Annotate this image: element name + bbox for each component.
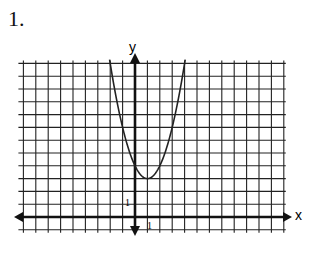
x-axis-label: x [295, 207, 302, 223]
x-axis-left-arrow-icon [14, 212, 23, 222]
x-unit-label: 1 [147, 220, 152, 231]
y-unit-label: 1 [125, 197, 130, 208]
coordinate-graph: x y 1 1 [0, 0, 322, 257]
axes [14, 53, 292, 236]
y-axis-down-arrow-icon [130, 226, 140, 236]
grid-lines [18, 60, 285, 232]
x-axis-right-arrow-icon [283, 212, 292, 222]
y-axis-label: y [129, 39, 136, 55]
